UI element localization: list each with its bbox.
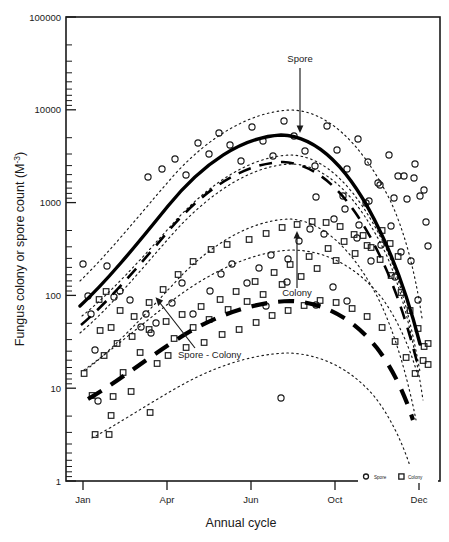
- chart-legend: Spore Colony: [358, 470, 438, 483]
- annotation-spore-label: Spore: [287, 53, 312, 64]
- y-tick-label: 1000: [40, 197, 61, 208]
- fungus-count-chart: 100000 10000 1000 100 10 1 Jan Apr Jun O…: [0, 0, 449, 542]
- legend-colony-label: Colony: [408, 475, 423, 480]
- x-tick-label: Oct: [328, 494, 343, 505]
- y-tick-label: 10: [50, 383, 61, 394]
- chart-svg: 100000 10000 1000 100 10 1 Jan Apr Jun O…: [0, 0, 449, 542]
- y-tick-label: 10000: [35, 104, 61, 115]
- svg-text:Fungus colony or spore count (: Fungus colony or spore count (M-3): [12, 152, 27, 346]
- y-axis-title-main: Fungus colony or spore count (M: [13, 164, 27, 347]
- x-tick-label: Jan: [75, 494, 90, 505]
- y-tick-label: 1: [56, 476, 61, 487]
- y-tick-label: 100000: [29, 12, 61, 23]
- x-axis-title: Annual cycle: [206, 516, 277, 530]
- y-axis-title: Fungus colony or spore count (M-3): [12, 152, 27, 346]
- y-axis-title-tail: ): [13, 152, 27, 156]
- x-tick-label: Dec: [411, 494, 428, 505]
- x-tick-label: Jun: [243, 494, 258, 505]
- x-tick-label: Apr: [160, 494, 175, 505]
- y-tick-label: 100: [45, 290, 61, 301]
- annotation-spore-minus-colony-label: Spore - Colony: [178, 349, 242, 360]
- annotation-colony-label: Colony: [282, 287, 312, 298]
- legend-spore-label: Spore: [374, 475, 387, 480]
